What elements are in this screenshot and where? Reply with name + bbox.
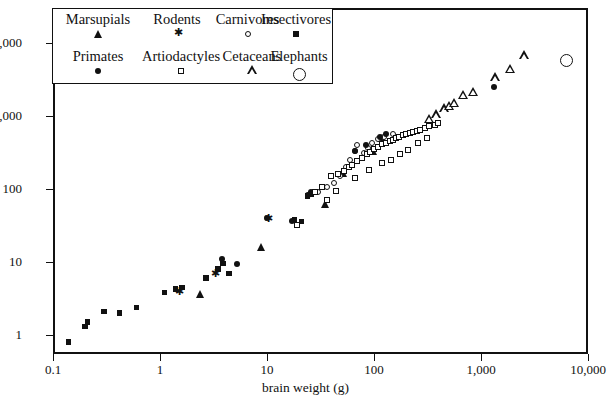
data-point-primates: [352, 148, 358, 154]
x-axis-title: brain weight (g): [0, 380, 611, 396]
legend-item: Marsupials: [55, 10, 141, 42]
legend-item: Primates: [55, 47, 141, 79]
data-point-artiodactyles: [435, 120, 441, 126]
data-point-insectivores: [85, 319, 91, 325]
data-point-insectivores: [173, 286, 179, 292]
x-tick-mark: [267, 354, 268, 361]
data-point-artiodactyles: [424, 135, 430, 141]
y-tick-label: 1: [16, 327, 23, 343]
data-point-artiodactyles: [312, 189, 318, 195]
data-point-insectivores: [215, 266, 221, 272]
data-point-insectivores: [162, 290, 168, 296]
x-tick-mark: [481, 354, 482, 361]
legend: MarsupialsRodents✱CarnivoresInsectivores…: [52, 8, 333, 84]
legend-label: Primates: [55, 47, 141, 65]
y-tick-mark: [46, 189, 53, 190]
y-tick-mark: [46, 335, 53, 336]
data-point-insectivores: [134, 305, 140, 311]
data-point-carnivores: [369, 140, 375, 146]
data-point-artiodactyles: [388, 157, 394, 163]
data-point-carnivores: [331, 180, 337, 186]
data-point-insectivores: [179, 285, 185, 291]
legend-label: Insectivores: [258, 10, 334, 28]
y-tick-mark: [46, 116, 53, 117]
x-tick-label: 10: [261, 362, 274, 378]
x-tick-label: 0.1: [45, 362, 61, 378]
legend-label: Marsupials: [55, 10, 141, 28]
data-point-insectivores: [101, 309, 107, 315]
y-tick-label: 100: [3, 181, 23, 197]
x-tick-label: 1,000: [466, 362, 495, 378]
data-point-insectivores: [203, 275, 209, 281]
legend-marker-star-icon: ✱: [145, 28, 209, 42]
x-tick-mark: [160, 354, 161, 361]
x-tick-label: 100: [364, 362, 384, 378]
data-point-artiodactyles: [366, 167, 372, 173]
legend-marker-open-square-icon: [135, 65, 227, 79]
legend-item: Insectivores: [258, 10, 334, 42]
data-point-artiodactyles: [397, 151, 403, 157]
legend-marker-filled-square-icon: [258, 28, 334, 42]
chart-figure: ✱✱✱ 0.11101001,00010,000 1101001,00010,0…: [0, 0, 611, 412]
data-point-artiodactyles: [352, 175, 358, 181]
data-point-primates: [219, 256, 225, 262]
data-point-artiodactyles: [405, 147, 411, 153]
data-point-artiodactyles: [319, 184, 325, 190]
legend-label: Elephants: [266, 47, 332, 65]
x-tick-label: 1: [157, 362, 164, 378]
data-point-insectivores: [117, 310, 123, 316]
data-point-marsupials: [196, 290, 204, 298]
data-point-primates: [264, 215, 270, 221]
data-point-insectivores: [226, 271, 232, 277]
data-point-insectivores: [66, 339, 72, 345]
y-tick-label: 1,000: [0, 108, 22, 124]
legend-row-2: PrimatesArtiodactylesCetaceansElephants: [53, 47, 332, 85]
y-tick-label: 10: [9, 254, 22, 270]
data-point-primates: [383, 131, 389, 137]
data-point-artiodactyles: [379, 160, 385, 166]
x-tick-mark: [374, 354, 375, 361]
legend-marker-filled-triangle-icon: [55, 28, 141, 42]
legend-label: Artiodactyles: [135, 47, 227, 65]
x-tick-mark: [53, 354, 54, 361]
x-tick-mark: [588, 354, 589, 361]
y-tick-label: 10,000: [0, 35, 22, 51]
legend-marker-filled-circle-icon: [55, 65, 141, 79]
data-point-elephants: [560, 54, 573, 67]
y-tick-mark: [46, 262, 53, 263]
legend-item: Rodents✱: [145, 10, 209, 42]
legend-row-1: MarsupialsRodents✱CarnivoresInsectivores: [53, 10, 332, 48]
data-point-primates: [491, 84, 497, 90]
data-point-artiodactyles: [333, 188, 339, 194]
data-point-primates: [363, 142, 369, 148]
data-point-artiodactyles: [294, 222, 300, 228]
data-point-artiodactyles: [324, 197, 330, 203]
data-point-marsupials: [257, 243, 265, 251]
legend-marker-large-open-circle-icon: [266, 65, 332, 79]
data-point-carnivores: [354, 142, 360, 148]
legend-item: Artiodactyles: [135, 47, 227, 79]
y-axis-ticks: 1101001,00010,000: [0, 0, 44, 412]
legend-item: Elephants: [266, 47, 332, 79]
data-point-primates: [234, 261, 240, 267]
data-point-artiodactyles: [328, 173, 334, 179]
data-point-artiodactyles: [415, 140, 421, 146]
x-tick-label: 10,000: [570, 362, 606, 378]
